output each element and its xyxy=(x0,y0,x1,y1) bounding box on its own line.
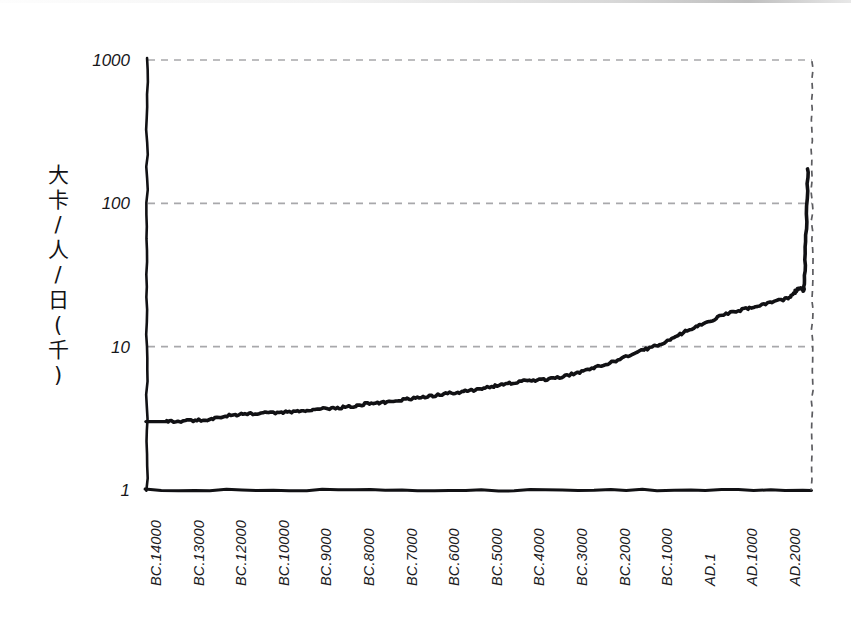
y-axis-title-char-8: ) xyxy=(38,363,78,388)
x-tick-label-bc-9000: BC.9000 xyxy=(318,528,334,586)
y-tick-label-100: 100 xyxy=(102,194,131,213)
axis-frame-group xyxy=(145,58,813,491)
y-axis-title-char-7: 千 xyxy=(38,338,78,363)
y-axis-title-char-3: 人 xyxy=(38,238,78,263)
x-tick-label-bc-1000: BC.1000 xyxy=(659,528,675,586)
x-tick-label-bc-4000: BC.4000 xyxy=(531,528,547,586)
y-tick-label-1: 1 xyxy=(121,481,130,500)
y-tick-labels-group: 1000100101 xyxy=(92,51,130,500)
right-border-line xyxy=(811,61,813,490)
x-tick-label-ad-2000: AD.2000 xyxy=(787,528,803,587)
energy-per-capita-chart: 大 卡 / 人 / 日 ( 千 ) 1000100101 BC.14000BC.… xyxy=(0,0,851,636)
x-tick-label-bc-10000: BC.10000 xyxy=(276,520,292,586)
x-tick-label-ad-1000: AD.1000 xyxy=(744,528,760,587)
y-axis-title: 大 卡 / 人 / 日 ( 千 ) xyxy=(38,163,78,388)
plot-area: 1000100101 BC.14000BC.13000BC.12000BC.10… xyxy=(0,0,851,636)
y-axis-title-char-5: 日 xyxy=(38,288,78,313)
x-tick-label-ad-1: AD.1 xyxy=(702,553,718,587)
y-axis-title-char-4: / xyxy=(38,263,78,288)
y-tick-label-1000: 1000 xyxy=(92,51,130,70)
y-axis-title-char-6: ( xyxy=(38,313,78,338)
x-tick-label-bc-5000: BC.5000 xyxy=(489,528,505,586)
x-tick-label-bc-3000: BC.3000 xyxy=(574,528,590,586)
data-line-energy-per-capita xyxy=(167,169,808,422)
y-axis-title-char-1: 卡 xyxy=(38,188,78,213)
y-axis-title-char-0: 大 xyxy=(38,163,78,188)
x-tick-labels-group: BC.14000BC.13000BC.12000BC.10000BC.9000B… xyxy=(148,520,803,587)
x-tick-label-bc-14000: BC.14000 xyxy=(148,520,164,586)
y-axis-line xyxy=(146,58,148,491)
gridlines-group xyxy=(148,60,812,347)
x-tick-label-bc-7000: BC.7000 xyxy=(404,528,420,586)
x-tick-label-bc-2000: BC.2000 xyxy=(617,528,633,586)
data-series-group xyxy=(146,169,808,422)
x-axis-line xyxy=(145,489,811,491)
x-tick-label-bc-12000: BC.12000 xyxy=(233,520,249,586)
y-tick-label-10: 10 xyxy=(111,338,130,357)
x-tick-label-bc-6000: BC.6000 xyxy=(446,528,462,586)
x-tick-label-bc-13000: BC.13000 xyxy=(191,520,207,586)
y-axis-title-char-2: / xyxy=(38,213,78,238)
x-tick-label-bc-8000: BC.8000 xyxy=(361,528,377,586)
